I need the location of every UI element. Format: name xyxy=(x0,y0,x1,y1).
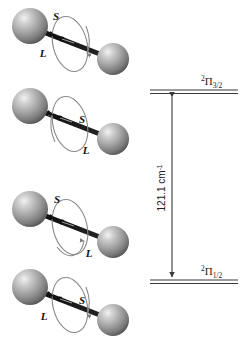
upper-term-subscript: 3/2 xyxy=(213,81,223,90)
upper-term-symbol-pi: Π xyxy=(205,75,213,87)
upper-energy-level xyxy=(150,90,238,94)
splitting-unit-exponent: -1 xyxy=(156,164,163,170)
lower-energy-level xyxy=(150,280,238,284)
lower-term-symbol-pi: Π xyxy=(205,265,213,277)
molecule-1-orbital-label: L xyxy=(39,47,47,59)
molecule-1: S L xyxy=(0,2,148,92)
molecule-4-orbital-label: L xyxy=(40,310,48,322)
molecule-2: S L xyxy=(0,82,148,172)
molecule-3-atom-left xyxy=(12,191,48,227)
molecule-3-orbital-label: L xyxy=(85,247,93,259)
molecule-3-spin-label: S xyxy=(54,193,60,205)
molecule-2-spin-label: S xyxy=(79,113,85,125)
molecule-1-spin-label: S xyxy=(53,10,59,22)
molecule-3-atom-right xyxy=(97,226,129,258)
molecule-2-orbital-label: L xyxy=(82,144,90,156)
molecule-4-atom-right xyxy=(97,304,129,336)
upper-level-term-symbol: 2Π3/2 xyxy=(201,74,223,90)
lower-term-subscript: 1/2 xyxy=(213,271,223,280)
splitting-label: 121.1 cm-1 xyxy=(156,164,168,211)
molecule-1-atom-left xyxy=(12,8,48,44)
molecule-2-orbital-arrow xyxy=(51,115,55,142)
molecule-4: S L xyxy=(0,263,148,349)
molecule-4-atom-left xyxy=(12,269,48,305)
splitting-value: 121.1 xyxy=(156,186,167,211)
spin-orbit-coupling-figure: S L S L S L xyxy=(0,0,242,349)
molecule-1-atom-right xyxy=(97,43,129,75)
molecule-2-atom-left xyxy=(12,88,48,124)
molecule-4-spin-label: S xyxy=(79,294,85,306)
molecule-2-atom-right xyxy=(97,123,129,155)
lower-level-term-symbol: 2Π1/2 xyxy=(201,264,223,280)
molecule-3: S L xyxy=(0,185,148,275)
splitting-unit: cm xyxy=(156,170,167,183)
energy-level-diagram: 121.1 cm-1 2Π3/2 2Π1/2 xyxy=(146,0,242,349)
